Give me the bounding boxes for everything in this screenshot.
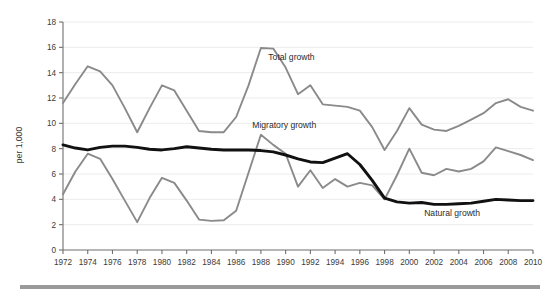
x-tick-label: 1972: [54, 258, 73, 267]
y-tick-label: 2: [51, 221, 56, 230]
y-tick-label: 16: [47, 43, 57, 52]
series-label-migratory-growth: Migratory growth: [252, 120, 316, 130]
x-tick-label: 1992: [301, 258, 320, 267]
y-tick-label: 8: [51, 145, 56, 154]
chart-figure: 024681012141618 197219741976197819801982…: [0, 0, 558, 298]
y-tick-label: 6: [51, 170, 56, 179]
y-tick-label: 10: [47, 119, 57, 128]
x-tick-label: 1988: [252, 258, 271, 267]
x-tick-label: 1990: [277, 258, 296, 267]
x-tick-label: 1984: [202, 258, 221, 267]
y-axis-title: per 1,000: [14, 127, 24, 164]
series-label-natural-growth: Natural growth: [424, 208, 480, 218]
y-tick-label: 0: [51, 246, 56, 255]
x-tick-label: 1982: [178, 258, 197, 267]
series-label-total-growth: Total growth: [268, 52, 315, 62]
x-tick-label: 1974: [79, 258, 98, 267]
x-tick-label: 1980: [153, 258, 172, 267]
line-chart: 024681012141618 197219741976197819801982…: [0, 0, 558, 298]
y-tick-label: 18: [47, 18, 57, 27]
footer-divider: [20, 285, 540, 289]
y-tick-label: 14: [47, 69, 57, 78]
x-tick-label: 1976: [103, 258, 122, 267]
x-tick-label: 2000: [400, 258, 419, 267]
x-tick-label: 2006: [474, 258, 493, 267]
y-tick-label: 4: [51, 195, 56, 204]
x-tick-label: 2010: [524, 258, 543, 267]
x-tick-label: 2004: [450, 258, 469, 267]
x-tick-label: 1996: [351, 258, 370, 267]
x-tick-label: 2008: [499, 258, 518, 267]
y-tick-label: 12: [47, 94, 57, 103]
x-tick-label: 1978: [128, 258, 147, 267]
x-tick-label: 1994: [326, 258, 345, 267]
x-tick-label: 2002: [425, 258, 444, 267]
x-tick-label: 1998: [375, 258, 394, 267]
x-tick-label: 1986: [227, 258, 246, 267]
